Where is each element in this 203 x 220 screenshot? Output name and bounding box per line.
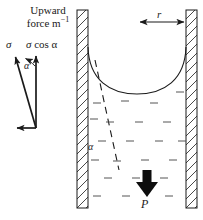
pressure-label: P — [141, 198, 148, 211]
upward-force-caption: Upward force m−1 — [14, 4, 82, 29]
diagram-canvas — [0, 0, 203, 220]
pressure-arrow — [136, 170, 158, 197]
tube-right-wall — [175, 0, 197, 220]
radius-label: r — [157, 8, 161, 20]
vector-alpha-angle-label: α — [24, 60, 29, 71]
tube-left-wall — [66, 0, 88, 220]
caption-line-2-prefix: force m — [27, 17, 61, 29]
contact-alpha-angle-label: α — [88, 141, 93, 152]
sigma-label: σ — [6, 38, 11, 50]
sigma-cos-alpha-label: σ cos α — [26, 38, 57, 50]
liquid-marks — [90, 92, 186, 196]
meniscus-curve — [88, 47, 186, 94]
caption-line-1: Upward — [30, 4, 65, 16]
capillary-rise-diagram: Upward force m−1 σ σ cos α α α r P — [0, 0, 203, 220]
cos-alpha-text: cos α — [31, 38, 57, 50]
caption-line-2-superscript: −1 — [61, 15, 70, 24]
contact-angle-tangent-line — [95, 60, 119, 170]
